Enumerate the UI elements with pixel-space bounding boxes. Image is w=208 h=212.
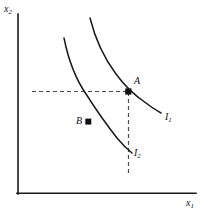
curve-label-i1: I1 — [165, 112, 172, 122]
x-axis-label-subscript: 1 — [190, 202, 194, 210]
point-marker-b — [85, 119, 91, 125]
indifference-curve-figure: x2 x1 A B I1 I2 — [0, 0, 208, 212]
y-axis-label: x2 — [4, 4, 12, 14]
curve-i2 — [64, 38, 132, 153]
point-label-a: A — [134, 76, 140, 86]
curve-label-i1-subscript: 1 — [168, 116, 172, 124]
curve-label-i2: I2 — [134, 148, 141, 158]
point-marker-a — [125, 88, 131, 94]
figure-canvas — [0, 0, 208, 212]
curve-i1 — [90, 18, 161, 113]
point-label-b: B — [76, 116, 82, 126]
x-axis-label: x1 — [186, 198, 194, 208]
y-axis-label-subscript: 2 — [8, 8, 12, 16]
curve-label-i2-subscript: 2 — [137, 152, 141, 160]
